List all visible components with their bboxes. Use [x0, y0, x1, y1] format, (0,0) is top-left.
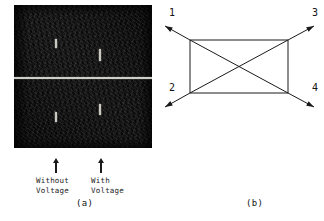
micrograph-image — [14, 5, 152, 148]
label-without-voltage: Without Voltage — [36, 176, 69, 195]
arrow-shaft — [100, 162, 102, 173]
label-with-voltage: With Voltage — [91, 176, 124, 195]
streak-lower-left — [55, 112, 57, 122]
arrow-shaft — [55, 162, 57, 173]
arrow-without-voltage-icon — [51, 158, 60, 173]
figure-root: Without Voltage With Voltage (a) 1 3 2 4… — [0, 0, 324, 221]
port-label-1: 1 — [169, 7, 175, 18]
caption-panel-a: (a) — [76, 198, 93, 208]
waveguide-coupler-diagram — [162, 0, 324, 190]
arrow-with-voltage-icon — [96, 158, 105, 173]
panel-a: Without Voltage With Voltage (a) — [0, 0, 162, 221]
port-label-3: 3 — [312, 7, 318, 18]
caption-panel-b: (b) — [246, 198, 263, 208]
port-label-4: 4 — [312, 82, 318, 93]
streak-lower-right — [99, 104, 101, 115]
streak-upper-left — [55, 39, 57, 48]
horizontal-divider-line — [14, 77, 152, 79]
panel-b: 1 3 2 4 (b) — [162, 0, 324, 221]
port-label-2: 2 — [169, 82, 175, 93]
streak-upper-right — [99, 49, 101, 61]
